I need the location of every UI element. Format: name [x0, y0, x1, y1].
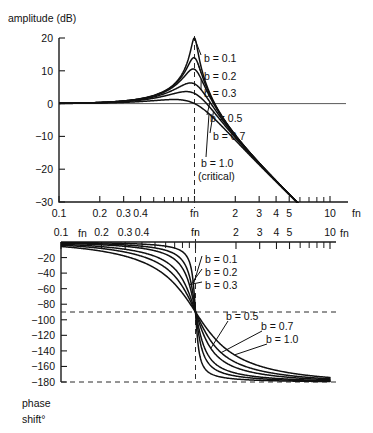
phase-annotations: b = 0.1 b = 0.2 b = 0.3 b = 0.5 b = 0.7 … — [205, 253, 299, 345]
ph-label-b-0-1: b = 0.1 — [205, 253, 238, 265]
amp-label-b-0-5: b = 0.5 — [210, 112, 243, 124]
amplitude-x-tick-label: 4 — [273, 207, 279, 219]
amplitude-x-tick-label: 0.3 — [116, 207, 131, 219]
phase-y-tick-label: −180 — [31, 376, 55, 388]
amplitude-axis-title: amplitude (dB) — [8, 12, 76, 24]
phase-axis-title-line2: shift° — [22, 413, 45, 425]
phase-reference-lines — [61, 230, 336, 382]
amplitude-x-tick-label: fn — [190, 207, 199, 219]
amplitude-y-tick-label: −20 — [35, 163, 53, 175]
amplitude-y-tick-label: 20 — [41, 32, 53, 44]
phase-y-tick-label: −160 — [31, 360, 55, 372]
bode-plot-svg: amplitude (dB) 20100−10−20−30 0.10.20.30… — [0, 0, 373, 433]
ph-label-b-0-5: b = 0.5 — [226, 310, 259, 322]
amplitude-annotations: b = 0.1 b = 0.2 b = 0.3 b = 0.5 b = 0.7 … — [198, 52, 246, 182]
amplitude-x-tick-label: 2 — [232, 207, 238, 219]
amplitude-x-tick-label: 3 — [256, 207, 262, 219]
phase-y-tick-label: −100 — [31, 314, 55, 326]
amp-label-b-0-2: b = 0.2 — [204, 70, 237, 82]
phase-leader-b-1 — [235, 344, 267, 355]
phase-y-tick-label: −120 — [31, 329, 55, 341]
phase-y-tick-label: −140 — [31, 345, 55, 357]
amp-label-critical: (critical) — [198, 170, 235, 182]
ph-label-b-1-0: b = 1.0 — [266, 333, 299, 345]
amplitude-x-tick-label: 0.2 — [92, 207, 107, 219]
amplitude-x-tick-label: 0.4 — [133, 207, 148, 219]
phase-x-tick-label: 4 — [274, 226, 280, 238]
amplitude-plot: amplitude (dB) 20100−10−20−30 0.10.20.30… — [8, 12, 361, 228]
amp-label-b-0-1: b = 0.1 — [204, 52, 237, 64]
phase-plot: −20−40−60−80−100−120−140−160−180 0.10.20… — [22, 226, 349, 425]
phase-leader-b-0-5 — [211, 321, 228, 348]
amplitude-x-unit: fn — [352, 207, 361, 219]
ph-label-b-0-2: b = 0.2 — [205, 266, 238, 278]
amplitude-x-tick-label: 10 — [324, 207, 336, 219]
phase-y-tick-label: −40 — [37, 267, 55, 279]
phase-x-tick-label: 0.2 — [94, 226, 109, 238]
phase-x-tick-label: 0.1 — [54, 226, 69, 238]
phase-x-unit-left: fn — [78, 227, 87, 239]
bode-plot-figure: amplitude (dB) 20100−10−20−30 0.10.20.30… — [0, 0, 373, 433]
amplitude-reference-lines — [59, 36, 346, 208]
amplitude-leader-b-1 — [206, 114, 209, 157]
phase-y-tick-label: −80 — [37, 298, 55, 310]
phase-leader-b-0-7 — [221, 331, 262, 353]
amplitude-y-tick-label: −10 — [35, 130, 53, 142]
amp-label-b-0-7: b = 0.7 — [213, 130, 246, 142]
amplitude-x-tick-label: 5 — [286, 207, 292, 219]
phase-x-tick-label: 10 — [324, 226, 336, 238]
phase-x-tick-label: 0.3 — [118, 226, 133, 238]
amp-label-b-0-3: b = 0.3 — [204, 87, 237, 99]
phase-y-tick-label: −60 — [37, 283, 55, 295]
ph-label-b-0-3: b = 0.3 — [205, 279, 238, 291]
phase-x-tick-label: 2 — [233, 226, 239, 238]
phase-axis-title-line1: phase — [22, 397, 51, 409]
phase-y-tick-label: −20 — [37, 252, 55, 264]
amp-label-b-1-0: b = 1.0 — [201, 157, 234, 169]
amplitude-y-tick-label: 0 — [47, 98, 53, 110]
phase-x-tick-label: 3 — [257, 226, 263, 238]
amplitude-y-ticks: 20100−10−20−30 — [35, 32, 65, 208]
ph-label-b-0-7: b = 0.7 — [261, 320, 294, 332]
amplitude-y-tick-label: −30 — [35, 196, 53, 208]
phase-x-tick-label: 5 — [287, 226, 293, 238]
amplitude-x-tick-label: 0.1 — [52, 207, 67, 219]
phase-x-tick-label: 0.4 — [135, 226, 150, 238]
phase-x-unit-right: fn — [340, 227, 349, 239]
amplitude-y-tick-label: 10 — [41, 65, 53, 77]
